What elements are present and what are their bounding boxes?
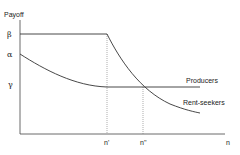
n1-label: n': [104, 139, 109, 146]
beta-label: β: [7, 30, 12, 39]
x-axis-label: n: [226, 139, 230, 146]
gamma-label: γ: [8, 80, 13, 89]
alpha-label: α: [7, 50, 13, 59]
rentseekers-label: Rent-seekers: [183, 99, 225, 106]
y-axis-label: Payoff: [4, 11, 24, 19]
n2-label: n'': [140, 139, 147, 146]
curve-lower: [20, 54, 200, 87]
curve-upper: [20, 34, 200, 113]
payoff-diagram: Payoff β α γ n' n'' n Producers Rent-see…: [0, 0, 240, 155]
producers-label: Producers: [186, 77, 218, 84]
